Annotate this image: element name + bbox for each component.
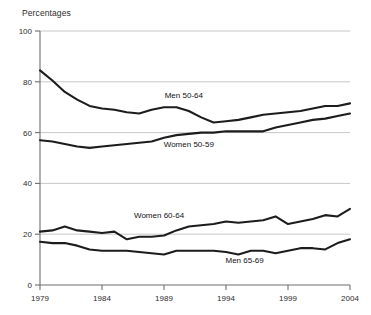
series-label-men-65-69: Men 65-69 — [225, 256, 264, 265]
y-tick-label: 100 — [19, 27, 33, 36]
y-tick-label: 0 — [28, 281, 33, 290]
x-tick-label: 1984 — [93, 294, 111, 303]
series-line-women-60-64 — [40, 209, 350, 239]
x-tick-label: 1994 — [217, 294, 235, 303]
x-tick-label: 1989 — [155, 294, 173, 303]
y-tick-label: 60 — [23, 129, 32, 138]
y-tick-label: 40 — [23, 179, 32, 188]
chart-container: Percentages 0204060801001979198419891994… — [0, 0, 371, 315]
y-tick-label: 80 — [23, 78, 32, 87]
x-tick-label: 1979 — [31, 294, 49, 303]
series-line-men-65-69 — [40, 239, 350, 254]
x-tick-label: 1999 — [279, 294, 297, 303]
series-label-men-50-64: Men 50-64 — [165, 91, 204, 100]
line-chart-plot: 020406080100197919841989199419992004Men … — [0, 0, 371, 315]
y-tick-label: 20 — [23, 230, 32, 239]
x-tick-label: 2004 — [341, 294, 359, 303]
series-label-women-60-64: Women 60-64 — [134, 211, 185, 220]
series-label-women-50-59: Women 50-59 — [164, 140, 215, 149]
